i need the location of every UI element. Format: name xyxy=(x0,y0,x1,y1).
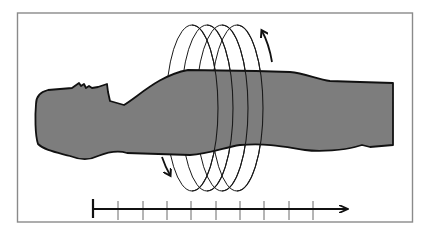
diagram-canvas xyxy=(0,0,427,231)
spiral-ct-diagram: Spiral CT scan schematic xyxy=(0,0,427,231)
